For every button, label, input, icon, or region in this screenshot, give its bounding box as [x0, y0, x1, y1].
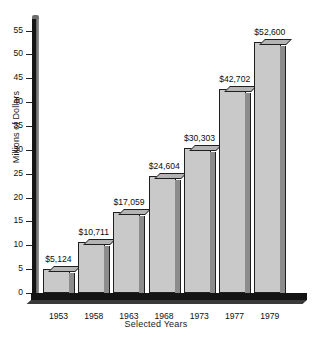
- x-axis-baseline-face: [27, 300, 307, 304]
- y-axis-tick: 20: [26, 198, 33, 199]
- bar-top-face: [189, 145, 222, 151]
- bar-top-face: [154, 173, 187, 179]
- y-axis-tick-label: 45: [14, 72, 23, 82]
- y-axis-tick-mark: [26, 245, 33, 246]
- bar-side-face: [69, 273, 75, 293]
- y-axis-tick-mark: [26, 269, 33, 270]
- y-axis-tick-mark: [26, 54, 33, 55]
- bar: $24,604: [149, 176, 176, 293]
- y-axis-tick-mark: [26, 150, 33, 151]
- bar: $5,124: [43, 269, 70, 293]
- y-axis-tick-label: 40: [14, 96, 23, 106]
- y-axis-tick-label: 10: [14, 239, 23, 249]
- bar-value-label: $5,124: [45, 254, 71, 264]
- bar: $52,600: [254, 42, 281, 293]
- bar-side-face: [280, 46, 286, 293]
- bar: $10,711: [78, 242, 105, 293]
- y-axis-tick: 5: [26, 269, 33, 270]
- y-axis-tick: 10: [26, 245, 33, 246]
- y-axis-tick-label: 50: [14, 48, 23, 58]
- bar-value-label: $17,059: [114, 197, 145, 207]
- bar-side-face: [175, 180, 181, 293]
- bar-side-face: [210, 152, 216, 293]
- y-axis-tick: 30: [26, 150, 33, 151]
- y-axis-tick-mark: [26, 78, 33, 79]
- y-axis-tick-label: 20: [14, 192, 23, 202]
- bar-top-face: [259, 39, 292, 45]
- y-axis-tick-mark: [26, 126, 33, 127]
- y-axis-tick-label: 15: [14, 215, 23, 225]
- y-axis-tick: 15: [26, 221, 33, 222]
- y-axis-tick-mark: [26, 174, 33, 175]
- y-axis-tick: 45: [26, 78, 33, 79]
- bar-top-face: [118, 209, 151, 215]
- bar-side-face: [104, 246, 110, 293]
- y-axis-tick: 50: [26, 54, 33, 55]
- y-axis-tick-label: 5: [18, 263, 23, 273]
- x-axis-title: Selected Years: [0, 319, 312, 329]
- plot-area: 0510152025303540455055 $5,124$10,711$17,…: [38, 12, 306, 300]
- x-axis-baseline: [31, 293, 307, 300]
- y-axis-tick-mark: [26, 102, 33, 103]
- bar-value-label: $24,604: [149, 161, 180, 171]
- bar-value-label: $30,303: [184, 133, 215, 143]
- bar-side-face: [139, 216, 145, 293]
- y-axis-tick-label: 30: [14, 144, 23, 154]
- bar-chart: Millions of Dollars 05101520253035404550…: [0, 0, 312, 341]
- y-axis-tick: 35: [26, 126, 33, 127]
- y-axis-tick: 40: [26, 102, 33, 103]
- y-axis-tick-label: 0: [18, 287, 23, 297]
- bar-top-face: [83, 239, 116, 245]
- bar-top-face: [224, 86, 257, 92]
- bar-value-label: $10,711: [79, 227, 109, 237]
- y-axis-tick-label: 25: [14, 168, 23, 178]
- bar: $17,059: [113, 212, 140, 293]
- y-axis-tick: 25: [26, 174, 33, 175]
- y-axis-tick: 55: [26, 31, 33, 32]
- bar-value-label: $42,702: [219, 74, 250, 84]
- bar-top-face: [48, 266, 81, 272]
- bar: $42,702: [219, 89, 246, 293]
- bar-value-label: $52,600: [254, 27, 285, 37]
- y-axis-tick-mark: [26, 221, 33, 222]
- y-axis-tick-label: 35: [14, 120, 23, 130]
- bar: $30,303: [184, 148, 211, 293]
- y-axis-line: [32, 18, 39, 294]
- bar-side-face: [245, 93, 251, 293]
- y-axis-tick-label: 55: [14, 25, 23, 35]
- y-axis-tick-mark: [26, 31, 33, 32]
- y-axis-tick-mark: [26, 198, 33, 199]
- y-axis-cap: [32, 15, 39, 19]
